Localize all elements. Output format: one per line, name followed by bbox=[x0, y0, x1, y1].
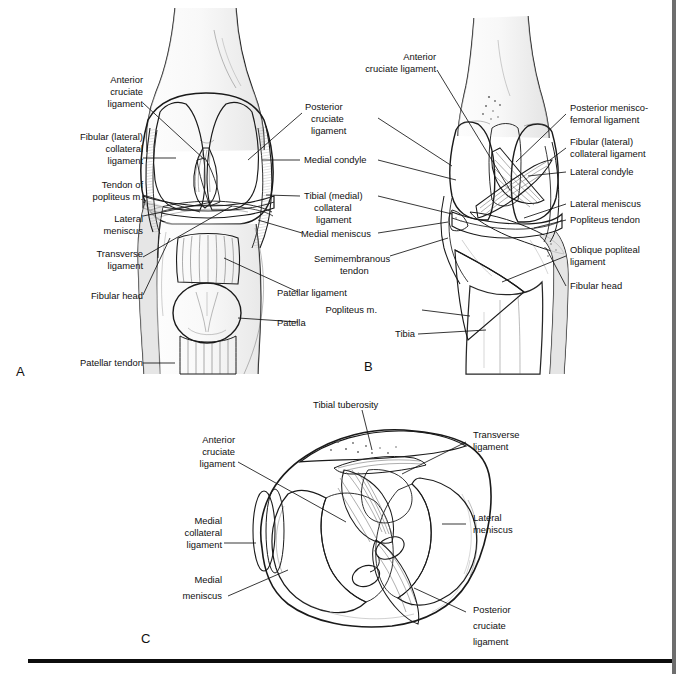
label-a-fcl-line-2: collateral bbox=[105, 143, 143, 154]
label-b-fcl-line-1: Fibular (lateral) bbox=[570, 136, 633, 147]
label-a-acl-line-2: cruciate bbox=[110, 86, 143, 97]
label-a-transverse-ligament-line-1: Transverse bbox=[96, 248, 143, 259]
right-vertical-rule bbox=[672, 0, 676, 674]
label-a-fcl-line-1: Fibular (lateral) bbox=[80, 131, 143, 142]
label-a-tcl-line-2: collateral bbox=[314, 202, 352, 213]
label-a-acl-line-1: Anterior bbox=[110, 74, 143, 85]
label-a-lateral-meniscus-line-1: Lateral bbox=[114, 213, 143, 224]
label-b-popliteus-m: Popliteus m. bbox=[325, 304, 377, 315]
label-a-pcl-line-2: cruciate bbox=[311, 113, 344, 124]
label-a-lateral-meniscus-line-2: meniscus bbox=[103, 225, 143, 236]
label-c-acl-line-2: cruciate bbox=[202, 446, 235, 457]
label-c-lateral-meniscus-line-2: meniscus bbox=[473, 524, 513, 535]
label-c-tibial-tuberosity: Tibial tuberosity bbox=[313, 399, 379, 410]
label-c-medial-meniscus-line-1: Medial bbox=[194, 574, 222, 585]
label-c-mcl-line-3: ligament bbox=[187, 539, 223, 550]
label-c-mcl-line-1: Medial bbox=[194, 515, 222, 526]
label-a-fibular-head: Fibular head bbox=[91, 290, 143, 301]
label-c-acl-line-3: ligament bbox=[200, 458, 236, 469]
panel-letter-c: C bbox=[141, 631, 150, 646]
label-b-popliteus-tendon: Popliteus tendon bbox=[570, 214, 640, 225]
label-b-opl-line-2: ligament bbox=[570, 256, 606, 267]
label-b-fibular-head: Fibular head bbox=[570, 280, 622, 291]
panel-letter-a: A bbox=[16, 364, 25, 379]
label-c-transverse-ligament-line-2: ligament bbox=[473, 441, 509, 452]
label-b-tibia: Tibia bbox=[395, 328, 416, 339]
label-a-tcl-line-1: Tibial (medial) bbox=[304, 190, 363, 201]
label-b-fcl-line-2: collateral ligament bbox=[570, 148, 646, 159]
label-b-acl-line-2: cruciate ligament bbox=[365, 63, 436, 74]
label-c-transverse-ligament-line-1: Transverse bbox=[473, 429, 520, 440]
label-b-semimembranous-line-1: Semimembranous bbox=[314, 253, 390, 264]
bottom-horizontal-rule bbox=[28, 659, 672, 663]
anatomy-figure: Anterior cruciate ligament Fibular (late… bbox=[0, 0, 680, 674]
label-c-acl-line-1: Anterior bbox=[202, 434, 235, 445]
label-c-pcl-line-1: Posterior bbox=[473, 604, 511, 615]
label-b-lateral-condyle: Lateral condyle bbox=[570, 166, 634, 177]
label-a-patellar-tendon: Patellar tendon bbox=[80, 357, 143, 368]
label-a-popliteus-tendon-line-2: popliteus m. bbox=[92, 191, 143, 202]
label-b-opl-line-1: Oblique popliteal bbox=[570, 244, 640, 255]
label-c-lateral-meniscus-line-1: Lateral bbox=[473, 512, 502, 523]
label-a-acl-line-3: ligament bbox=[108, 98, 144, 109]
label-a-fcl-line-3: ligament bbox=[108, 155, 144, 166]
label-b-lateral-meniscus: Lateral meniscus bbox=[570, 198, 641, 209]
label-a-pcl-line-1: Posterior bbox=[305, 101, 343, 112]
panel-letter-b: B bbox=[364, 359, 373, 374]
label-a-medial-condyle: Medial condyle bbox=[304, 154, 367, 165]
label-c-pcl-line-2: cruciate bbox=[473, 620, 506, 631]
label-b-pmfl-line-1: Posterior menisco- bbox=[570, 102, 648, 113]
label-a-patella: Patella bbox=[277, 317, 306, 328]
label-a-transverse-ligament-line-2: ligament bbox=[108, 260, 144, 271]
label-a-popliteus-tendon-line-1: Tendon of bbox=[102, 179, 144, 190]
label-a-pcl-line-3: ligament bbox=[311, 125, 347, 136]
label-a-medial-meniscus: Medial meniscus bbox=[301, 228, 371, 239]
label-c-pcl-line-3: ligament bbox=[473, 636, 509, 647]
label-a-tcl-line-3: ligament bbox=[316, 214, 352, 225]
label-b-acl-line-1: Anterior bbox=[403, 51, 436, 62]
label-c-mcl-line-2: collateral bbox=[184, 527, 222, 538]
knee-anatomy-illustration: Anterior cruciate ligament Fibular (late… bbox=[0, 0, 680, 674]
label-a-patellar-ligament: Patellar ligament bbox=[277, 287, 347, 298]
label-b-pmfl-line-2: femoral ligament bbox=[570, 114, 640, 125]
label-b-semimembranous-line-2: tendon bbox=[340, 265, 369, 276]
label-c-medial-meniscus-line-2: meniscus bbox=[182, 590, 222, 601]
